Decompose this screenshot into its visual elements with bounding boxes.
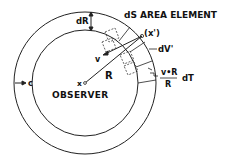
dT-label: dT bbox=[182, 73, 194, 83]
c-arrow bbox=[15, 81, 26, 85]
diagram-canvas: dR (x') R v dV' dS AREA ELEMENT v•R R dT bbox=[0, 0, 240, 160]
observer-label: OBSERVER bbox=[52, 90, 109, 100]
dR-label: dR bbox=[76, 16, 89, 26]
time-step-marks bbox=[148, 68, 158, 76]
dR-arrow bbox=[89, 12, 93, 31]
x-label: x bbox=[77, 79, 82, 88]
area-element-label: dS AREA ELEMENT bbox=[124, 10, 218, 20]
observer-point bbox=[84, 82, 87, 85]
fraction-denominator: R bbox=[165, 80, 171, 89]
dV-label: dV' bbox=[158, 44, 173, 54]
v-label: v bbox=[95, 55, 101, 64]
R-vector-line bbox=[85, 36, 142, 83]
c-label: c bbox=[28, 79, 33, 88]
source-point-label: (x') bbox=[144, 28, 160, 38]
R-label: R bbox=[105, 70, 113, 81]
fraction-numerator: v•R bbox=[161, 68, 178, 77]
